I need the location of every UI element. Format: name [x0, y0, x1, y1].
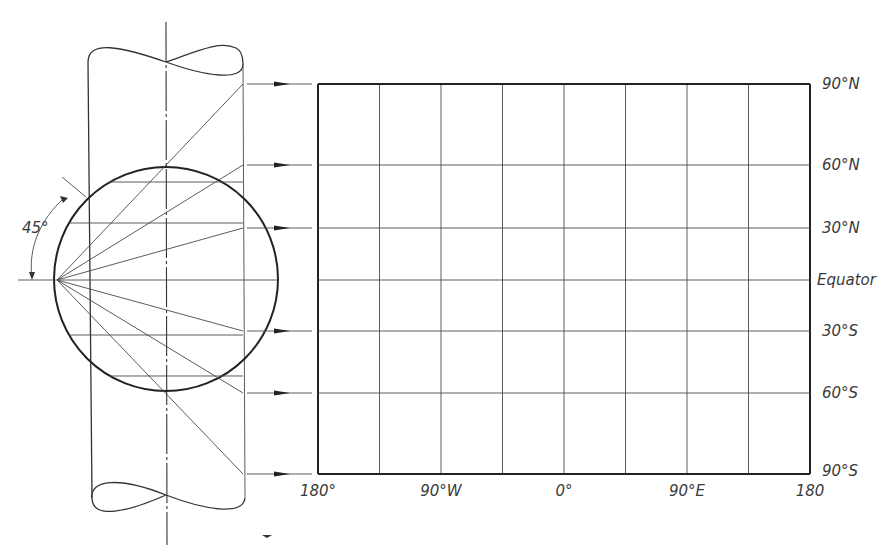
latitude-label: 60°N	[822, 156, 860, 174]
angle-label: 45°	[22, 219, 49, 237]
cylinder-axis	[166, 22, 167, 545]
longitude-label: 0°	[555, 482, 572, 500]
projection-ray	[57, 280, 243, 331]
arrowhead-icon	[274, 329, 290, 334]
latitude-label: 90°N	[822, 75, 860, 93]
arrowhead-icon	[274, 163, 290, 168]
latitude-label: 60°S	[822, 384, 859, 402]
latitude-chords	[69, 182, 243, 376]
graticule	[318, 84, 810, 474]
longitude-label: 180	[796, 482, 825, 500]
latitude-label: 30°N	[822, 219, 860, 237]
longitude-label: 90°E	[669, 482, 706, 500]
projection-rays	[57, 84, 243, 474]
cylinder-bottom-curve	[92, 483, 245, 512]
projection-ray	[57, 228, 243, 280]
cylinder-top-curve	[88, 45, 243, 75]
cylinder-right-edge	[243, 64, 245, 498]
arrowhead-icon	[274, 472, 290, 477]
latitude-label: 30°S	[822, 322, 859, 340]
angle-arc	[31, 198, 64, 278]
projection-ray	[57, 280, 243, 474]
stray-mark	[262, 535, 272, 538]
longitude-labels: 180°90°W0°90°E180	[300, 482, 824, 500]
projection-diagram: 45° 90°N60°N30°NEquator30°S60°S90°S 180°…	[0, 0, 895, 549]
arrowhead-icon	[274, 226, 290, 231]
arrowhead-icon	[274, 391, 290, 396]
angle-arrowhead-top	[60, 196, 68, 203]
angle-arrowhead-bottom	[29, 272, 35, 280]
longitude-label: 90°W	[420, 482, 463, 500]
latitude-labels: 90°N60°N30°NEquator30°S60°S90°S	[817, 75, 877, 480]
arrowhead-icon	[274, 82, 290, 87]
longitude-label: 180°	[300, 482, 336, 500]
transfer-arrows	[247, 82, 312, 477]
angle-extension-line	[62, 177, 86, 197]
latitude-label: 90°S	[822, 462, 859, 480]
cylinder	[88, 22, 245, 545]
latitude-label: Equator	[817, 271, 877, 289]
